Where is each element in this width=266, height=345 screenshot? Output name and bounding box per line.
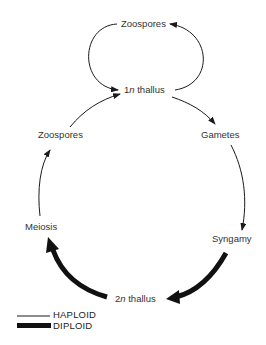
thallus-text: thallus [135,84,165,95]
label-meiosis: Meiosis [25,221,57,232]
label-1n-thallus: 1n thallus [124,84,165,95]
label-zoospores-top: Zoospores [121,18,166,29]
label-zoospores-left: Zoospores [38,129,83,140]
arrow-1n-thallus-to-gametes [172,97,215,124]
arrow-meiosis-to-zoospores [39,150,50,216]
label-2n-thallus: 2n thallus [115,293,156,304]
arrowhead-2n-thallus [166,290,180,304]
arrow-gametes-to-syngamy [231,145,245,230]
arrowhead-meiosis [46,237,59,253]
label-gametes: Gametes [201,129,240,140]
arrow-zoospores-left-to-1n-thallus [70,94,120,127]
legend-diploid-label: DIPLOID [53,320,92,331]
arrow-1n-thallus-to-zoospores [170,24,203,90]
arrow-zoospores-to-1n-thallus [89,24,118,90]
label-syngamy: Syngamy [212,233,252,244]
arrow-2n-thallus-to-meiosis [53,250,107,297]
arrow-syngamy-to-2n-thallus [176,253,226,297]
legend-diploid-bar [17,323,51,328]
legend-haploid-label: HAPLOID [53,309,96,320]
thallus-text: thallus [126,293,156,304]
